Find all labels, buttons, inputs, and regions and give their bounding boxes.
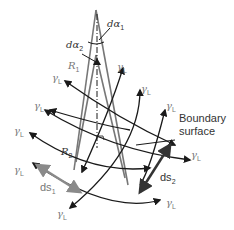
gamma-label: γL — [141, 84, 151, 96]
d-alpha-2-label: dα2 — [66, 40, 83, 52]
ds2-label: ds2 — [160, 172, 176, 185]
gamma-label: γL — [57, 209, 67, 221]
gamma-label: γL — [14, 165, 24, 177]
gamma-label: γL — [117, 62, 127, 74]
gamma-label: γL — [191, 150, 201, 162]
ds1-label: ds1 — [40, 182, 56, 195]
gamma-label: γL — [166, 198, 176, 210]
r1-label: R1 — [68, 61, 79, 73]
gamma-label: γL — [34, 101, 44, 113]
cone-lines — [74, 10, 128, 185]
gamma-label: γL — [52, 73, 62, 85]
d-alpha-1-label: dα1 — [107, 19, 124, 31]
gamma-label: γL — [166, 101, 176, 113]
r2-label: R2 — [61, 147, 72, 159]
gamma-label: γL — [14, 126, 24, 138]
boundary-surface-label: Boundary surface — [179, 112, 226, 138]
